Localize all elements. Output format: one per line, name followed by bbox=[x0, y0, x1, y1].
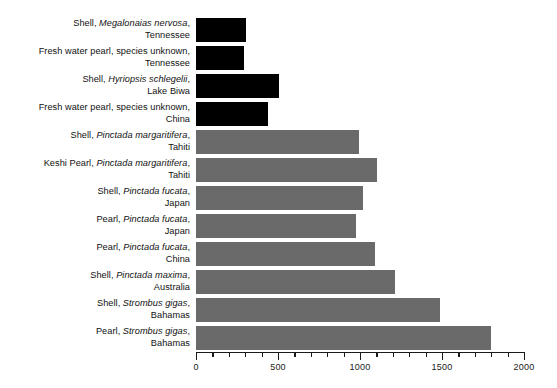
bar bbox=[196, 186, 363, 210]
species-name: Pinctada fucata bbox=[123, 214, 187, 224]
bar-category-label: Keshi Pearl, Pinctada margaritifera,Tahi… bbox=[0, 156, 196, 184]
bar-label-line-1: Shell, Pinctada margaritifera, bbox=[71, 130, 190, 142]
bar-row: Shell, Hyriopsis schlegelii,Lake Biwa bbox=[0, 72, 557, 100]
bar-row: Pearl, Strombus gigas,Bahamas bbox=[0, 324, 557, 352]
bar bbox=[196, 130, 359, 154]
bar-label-line-2: China bbox=[166, 254, 190, 266]
bar-label-line-1: Keshi Pearl, Pinctada margaritifera, bbox=[44, 158, 190, 170]
x-axis-minor-tick bbox=[458, 352, 459, 357]
species-name: Pinctada margaritifera bbox=[96, 130, 187, 140]
bar-row: Shell, Pinctada maxima,Australia bbox=[0, 268, 557, 296]
bar-label-line-1: Shell, Hyriopsis schlegelii, bbox=[82, 74, 190, 86]
x-axis-minor-tick bbox=[294, 352, 295, 357]
species-name: Pinctada margaritifera bbox=[96, 158, 187, 168]
x-axis-minor-tick bbox=[311, 352, 312, 357]
bar-category-label: Pearl, Strombus gigas,Bahamas bbox=[0, 324, 196, 352]
bar-label-line-1: Pearl, Pinctada fucata, bbox=[96, 214, 190, 226]
species-name: Pinctada maxima bbox=[116, 270, 187, 280]
x-axis-minor-tick bbox=[376, 352, 377, 357]
bar-label-line-1: Fresh water pearl, species unknown, bbox=[39, 102, 190, 114]
bar-track bbox=[196, 296, 524, 324]
x-axis-major-tick bbox=[278, 352, 279, 360]
x-axis-major-tick bbox=[524, 352, 525, 360]
bar-label-line-2: Japan bbox=[165, 226, 190, 238]
bar-row: Fresh water pearl, species unknown,China bbox=[0, 100, 557, 128]
x-axis-minor-tick bbox=[327, 352, 328, 357]
x-axis-tick-label: 500 bbox=[270, 362, 286, 372]
bar-track bbox=[196, 44, 524, 72]
bar-track bbox=[196, 100, 524, 128]
bar-label-line-1: Shell, Strombus gigas, bbox=[97, 298, 190, 310]
x-axis-tick-label: 2000 bbox=[514, 362, 535, 372]
x-axis-tick-label: 0 bbox=[193, 362, 198, 372]
bar-category-label: Shell, Pinctada maxima,Australia bbox=[0, 268, 196, 296]
bar-label-line-1: Pearl, Strombus gigas, bbox=[96, 326, 190, 338]
bar-category-label: Shell, Pinctada fucata,Japan bbox=[0, 184, 196, 212]
bar-track bbox=[196, 212, 524, 240]
species-name: Hyriopsis schlegelii bbox=[108, 74, 187, 84]
x-axis-minor-tick bbox=[426, 352, 427, 357]
bar-row: Keshi Pearl, Pinctada margaritifera,Tahi… bbox=[0, 156, 557, 184]
species-name: Megalonaias nervosa bbox=[99, 18, 187, 28]
bar-chart: Shell, Megalonaias nervosa,TennesseeFres… bbox=[0, 0, 557, 388]
x-axis-minor-tick bbox=[212, 352, 213, 357]
bar-track bbox=[196, 72, 524, 100]
bar-category-label: Pearl, Pinctada fucata,Japan bbox=[0, 212, 196, 240]
bar-label-line-2: Lake Biwa bbox=[147, 86, 190, 98]
bar-row: Shell, Megalonaias nervosa,Tennessee bbox=[0, 16, 557, 44]
bar-row: Shell, Pinctada margaritifera,Tahiti bbox=[0, 128, 557, 156]
bar-track bbox=[196, 128, 524, 156]
x-axis-minor-tick bbox=[409, 352, 410, 357]
bar-label-line-1: Shell, Pinctada maxima, bbox=[90, 270, 190, 282]
bar-row: Fresh water pearl, species unknown,Tenne… bbox=[0, 44, 557, 72]
bar-track bbox=[196, 16, 524, 44]
bar-category-label: Shell, Strombus gigas,Bahamas bbox=[0, 296, 196, 324]
bar bbox=[196, 74, 279, 98]
bar-label-line-2: Tahiti bbox=[168, 142, 190, 154]
plot-area: Shell, Megalonaias nervosa,TennesseeFres… bbox=[0, 16, 557, 352]
bar-category-label: Fresh water pearl, species unknown,China bbox=[0, 100, 196, 128]
x-axis-major-tick bbox=[360, 352, 361, 360]
species-name: Strombus gigas bbox=[123, 298, 188, 308]
x-axis-tick-label: 1000 bbox=[350, 362, 371, 372]
x-axis-minor-tick bbox=[262, 352, 263, 357]
bar bbox=[196, 46, 244, 70]
bar bbox=[196, 18, 246, 42]
bar-label-line-2: Tahiti bbox=[168, 170, 190, 182]
bar-category-label: Shell, Pinctada margaritifera,Tahiti bbox=[0, 128, 196, 156]
bar-label-line-1: Shell, Megalonaias nervosa, bbox=[73, 18, 190, 30]
bar-row: Pearl, Pinctada fucata,Japan bbox=[0, 212, 557, 240]
x-axis-tick-label: 1500 bbox=[432, 362, 453, 372]
bar bbox=[196, 102, 268, 126]
species-name: Pinctada fucata bbox=[123, 186, 187, 196]
bar-label-line-1: Pearl, Pinctada fucata, bbox=[96, 242, 190, 254]
bar-label-line-2: Tennessee bbox=[145, 58, 190, 70]
bar bbox=[196, 242, 375, 266]
bar-category-label: Pearl, Pinctada fucata,China bbox=[0, 240, 196, 268]
x-axis-minor-tick bbox=[245, 352, 246, 357]
bar-category-label: Shell, Hyriopsis schlegelii,Lake Biwa bbox=[0, 72, 196, 100]
bar-category-label: Fresh water pearl, species unknown,Tenne… bbox=[0, 44, 196, 72]
bar bbox=[196, 270, 395, 294]
species-name: Strombus gigas bbox=[123, 326, 188, 336]
bar-track bbox=[196, 184, 524, 212]
x-axis: 0500100015002000 bbox=[196, 352, 524, 386]
x-axis-minor-tick bbox=[344, 352, 345, 357]
x-axis-minor-tick bbox=[491, 352, 492, 357]
bar-track bbox=[196, 324, 524, 352]
bar-label-line-2: Tennessee bbox=[145, 30, 190, 42]
bar-label-line-2: Japan bbox=[165, 198, 190, 210]
bar bbox=[196, 298, 440, 322]
x-axis-minor-tick bbox=[393, 352, 394, 357]
x-axis-minor-tick bbox=[475, 352, 476, 357]
bar bbox=[196, 158, 377, 182]
x-axis-major-tick bbox=[442, 352, 443, 360]
bar-track bbox=[196, 268, 524, 296]
x-axis-minor-tick bbox=[508, 352, 509, 357]
bar-label-line-2: Australia bbox=[154, 282, 190, 294]
x-axis-minor-tick bbox=[229, 352, 230, 357]
bar-label-line-2: Bahamas bbox=[151, 310, 190, 322]
bar bbox=[196, 326, 491, 350]
bar-row: Shell, Pinctada fucata,Japan bbox=[0, 184, 557, 212]
bar-label-line-2: China bbox=[166, 114, 190, 126]
